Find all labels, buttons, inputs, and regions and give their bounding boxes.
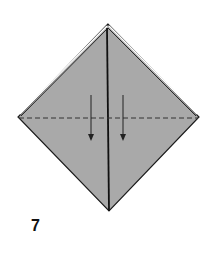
step-number-label: 7 (31, 217, 40, 235)
origami-diagram (0, 0, 215, 253)
